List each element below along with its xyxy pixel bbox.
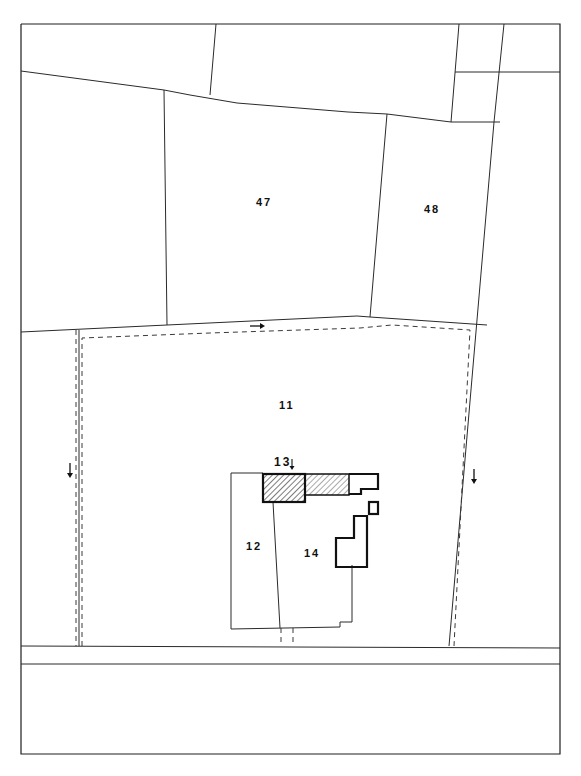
parcel-label-48: 48: [424, 203, 440, 215]
parcel-label-47: 47: [256, 196, 272, 208]
arrow-down-13-icon: [288, 459, 296, 471]
parcel-label-14: 14: [304, 547, 320, 559]
arrow-right-icon: [250, 321, 266, 331]
arrow-down-left-icon: [65, 463, 75, 479]
parcel-label-11: 11: [279, 399, 295, 411]
site-plan-map: [0, 0, 581, 776]
map-frame: [21, 24, 560, 754]
arrow-down-right-icon: [469, 469, 479, 485]
road-lines: [21, 646, 560, 664]
building-13: [263, 474, 349, 502]
parcel-label-12: 12: [246, 540, 262, 552]
parcel-boundaries-top: [21, 24, 560, 325]
